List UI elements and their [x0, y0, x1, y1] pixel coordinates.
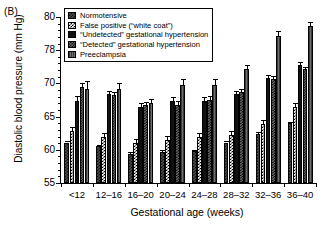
error-bar-cap: [276, 31, 281, 32]
bar-grey-vertical: [276, 36, 281, 183]
error-bar: [109, 91, 110, 94]
legend-label: “Undetected” gestational hypertension: [80, 30, 208, 39]
error-bar-cap: [213, 79, 218, 80]
legend-swatch-grey-vertical: [68, 51, 76, 58]
bar-dark-checker: [96, 146, 101, 183]
error-bar-cap: [85, 81, 90, 82]
error-bar: [231, 131, 232, 135]
bar-grey-vertical: [117, 89, 122, 183]
bar-white-checker: [165, 140, 170, 183]
x-tick: [157, 183, 158, 187]
x-tick-label: 28–32: [223, 189, 249, 200]
error-bar: [136, 139, 137, 143]
bar-dark-checker: [192, 151, 197, 183]
error-bar: [141, 103, 142, 106]
x-tick-label: 36–40: [287, 189, 313, 200]
error-bar: [204, 97, 205, 101]
x-tick-label: 32–36: [255, 189, 281, 200]
error-bar: [162, 150, 163, 151]
legend-swatch-solid-black: [68, 31, 76, 38]
bar-grey-vertical: [180, 85, 185, 183]
legend-label: Preeclampsia: [80, 50, 126, 59]
bar-dark-checker: [64, 143, 69, 184]
error-bar-cap: [308, 22, 313, 23]
error-bar: [82, 83, 83, 87]
bar-grey-vertical: [85, 89, 90, 183]
bar-white-checker: [229, 135, 234, 183]
y-axis-title: Diastolic blood pressure (mm Hg): [13, 14, 24, 164]
error-bar: [119, 83, 120, 89]
legend-label: False positive (“white coat”): [80, 21, 173, 30]
legend-label: Normotensive: [80, 11, 127, 20]
legend-swatch-grey-checker: [68, 41, 76, 48]
legend-item: Preeclampsia: [68, 49, 208, 59]
x-tick: [220, 183, 221, 187]
bar-white-checker: [70, 131, 75, 183]
x-axis-title: Gestational age (weeks): [52, 206, 322, 218]
x-tick: [125, 183, 126, 187]
legend-label: “Detected” gestational hypertension: [80, 40, 200, 49]
error-bar: [67, 141, 68, 142]
error-bar-cap: [245, 65, 250, 66]
error-bar: [236, 91, 237, 94]
bar-dark-checker: [128, 154, 133, 183]
bar-solid-black: [266, 78, 271, 183]
error-bar: [146, 102, 147, 105]
legend-swatch-dark-checker: [68, 12, 76, 19]
error-bar: [290, 122, 291, 124]
legend: NormotensiveFalse positive (“white coat”…: [64, 8, 213, 62]
error-bar: [295, 103, 296, 107]
bar-dark-checker: [224, 143, 229, 184]
error-bar-cap: [171, 97, 176, 98]
y-tick-label: 70: [44, 78, 55, 88]
error-bar-cap: [80, 83, 85, 84]
x-tick-label: 12–16: [96, 189, 122, 200]
error-bar: [167, 136, 168, 140]
bar-solid-black: [234, 94, 239, 183]
error-bar: [273, 76, 274, 79]
bar-solid-black: [298, 65, 303, 183]
bar-solid-black: [202, 101, 207, 183]
bar-grey-vertical: [308, 26, 313, 183]
error-bar: [194, 150, 195, 151]
bar-white-checker: [261, 124, 266, 183]
bar-solid-black: [107, 94, 112, 183]
bar-grey-checker: [271, 79, 276, 183]
error-bar: [104, 133, 105, 137]
bar-white-checker: [293, 107, 298, 183]
bar-white-checker: [197, 137, 202, 183]
x-tick: [316, 183, 317, 187]
x-tick: [252, 183, 253, 187]
error-bar: [258, 132, 259, 134]
legend-item: False positive (“white coat”): [68, 21, 208, 31]
error-bar: [114, 92, 115, 96]
error-bar: [241, 89, 242, 92]
legend-swatch-white-checker: [68, 22, 76, 29]
error-bar-cap: [149, 99, 154, 100]
x-tick-label: 24–28: [191, 189, 217, 200]
x-tick: [61, 183, 62, 187]
error-bar: [130, 152, 131, 153]
bar-solid-black: [138, 107, 143, 183]
error-bar: [99, 145, 100, 146]
bar-grey-vertical: [244, 69, 249, 183]
x-tick-label: <12: [69, 189, 85, 200]
bar-solid-black: [170, 101, 175, 183]
bar-dark-checker: [160, 152, 165, 183]
error-bar: [268, 75, 269, 78]
y-tick-label: 78: [44, 45, 55, 55]
error-bar: [210, 96, 211, 100]
error-bar-cap: [117, 83, 122, 84]
bar-dark-checker: [256, 134, 261, 183]
bar-grey-vertical: [212, 85, 217, 183]
error-bar: [278, 31, 279, 36]
error-bar: [72, 127, 73, 131]
legend-item: “Undetected” gestational hypertension: [68, 30, 208, 40]
bar-grey-vertical: [149, 103, 154, 183]
error-bar-cap: [139, 103, 144, 104]
bar-white-checker: [133, 143, 138, 183]
y-tick-label: 65: [44, 112, 55, 122]
x-tick: [284, 183, 285, 187]
error-bar: [173, 97, 174, 101]
bar-grey-checker: [112, 95, 117, 183]
